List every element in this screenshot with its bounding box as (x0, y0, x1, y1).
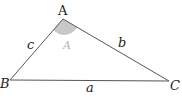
vertex-label-a: A (57, 3, 68, 18)
vertex-label-b: B (0, 76, 10, 91)
triangle-diagram: A B C a b c A (0, 0, 182, 102)
angle-label-a: A (62, 39, 71, 52)
side-label-b: b (118, 35, 126, 50)
angle-a-shading (54, 19, 78, 35)
side-label-c: c (27, 37, 35, 52)
side-label-a: a (86, 80, 94, 95)
vertex-label-c: C (170, 78, 180, 93)
